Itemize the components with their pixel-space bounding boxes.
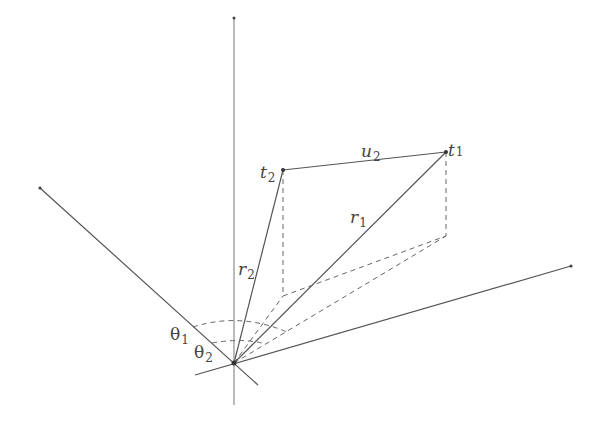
vector-r1 bbox=[234, 152, 446, 363]
label-r2: r2 bbox=[238, 259, 255, 282]
theta1-arc bbox=[193, 321, 287, 332]
label-t1: t1 bbox=[448, 140, 463, 160]
label-theta1: θ1 bbox=[170, 324, 189, 347]
vector-diagram: t1 t2 u2 r1 r2 θ1 θ2 bbox=[0, 0, 600, 421]
right-axis bbox=[195, 266, 571, 375]
right-axis-tip-icon bbox=[569, 264, 572, 267]
t1-projection-line bbox=[234, 236, 446, 363]
feet-connector-line bbox=[283, 236, 446, 296]
label-t2: t2 bbox=[260, 162, 275, 185]
diagram-canvas: t1 t2 u2 r1 r2 θ1 θ2 bbox=[0, 0, 600, 421]
vertical-axis-tip-icon bbox=[233, 17, 236, 20]
label-r1: r1 bbox=[350, 207, 367, 230]
t2-projection-line bbox=[234, 296, 283, 363]
left-axis bbox=[40, 188, 258, 385]
left-axis-tip-icon bbox=[38, 186, 41, 189]
origin-point bbox=[232, 361, 237, 366]
point-t2 bbox=[281, 168, 285, 172]
label-u2: u2 bbox=[361, 141, 381, 164]
label-theta2: θ2 bbox=[194, 342, 213, 365]
